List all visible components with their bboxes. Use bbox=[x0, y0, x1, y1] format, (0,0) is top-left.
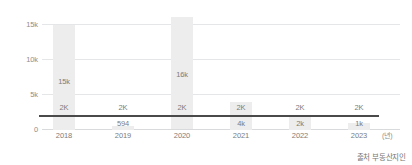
demand-label-2023: 2K bbox=[345, 104, 373, 112]
supply-label-2018: 15k bbox=[50, 78, 78, 86]
supply-label-2021: 4k bbox=[227, 120, 255, 128]
demand-label-2019: 2K bbox=[109, 104, 137, 112]
supply-label-2022: 2k bbox=[286, 120, 314, 128]
supply-label-2019: 594 bbox=[109, 120, 137, 128]
x-tick-2019: 2019 bbox=[109, 132, 137, 140]
x-tick-2020: 2020 bbox=[168, 132, 196, 140]
supply-label-2023: 1k bbox=[345, 120, 373, 128]
x-axis: 2018 2019 2020 2021 2022 2023 bbox=[42, 132, 400, 146]
gridline-0 bbox=[42, 129, 400, 130]
demand-label-2020: 2K bbox=[168, 104, 196, 112]
y-tick-0: 0 bbox=[0, 126, 38, 134]
y-tick-5k: 5k bbox=[0, 91, 38, 99]
x-axis-unit: (년) bbox=[382, 132, 393, 139]
demand-label-2022: 2K bbox=[286, 104, 314, 112]
demand-trend-line bbox=[39, 115, 379, 117]
plot-area: 15k 594 16k 4k 2k 1k 2K 2K 2K 2K 2K 2K bbox=[42, 24, 400, 130]
x-tick-2021: 2021 bbox=[227, 132, 255, 140]
demand-label-2018: 2K bbox=[50, 104, 78, 112]
x-tick-2023: 2023 bbox=[345, 132, 373, 140]
gridline-10k bbox=[42, 59, 400, 60]
y-tick-10k: 10k bbox=[0, 56, 38, 64]
supply-demand-chart: 15k 10k 5k 0 15k 594 16k 4k 2k 1k 2K 2K … bbox=[0, 0, 412, 165]
demand-label-2021: 2K bbox=[227, 104, 255, 112]
x-tick-2018: 2018 bbox=[50, 132, 78, 140]
x-tick-2022: 2022 bbox=[286, 132, 314, 140]
gridline-15k bbox=[42, 24, 400, 25]
y-tick-15k: 15k bbox=[0, 21, 38, 29]
source-attribution: 출처 부동산지인 bbox=[357, 154, 406, 162]
y-axis: 15k 10k 5k 0 bbox=[0, 24, 38, 130]
gridline-5k bbox=[42, 94, 400, 95]
supply-label-2020: 16k bbox=[168, 71, 196, 79]
